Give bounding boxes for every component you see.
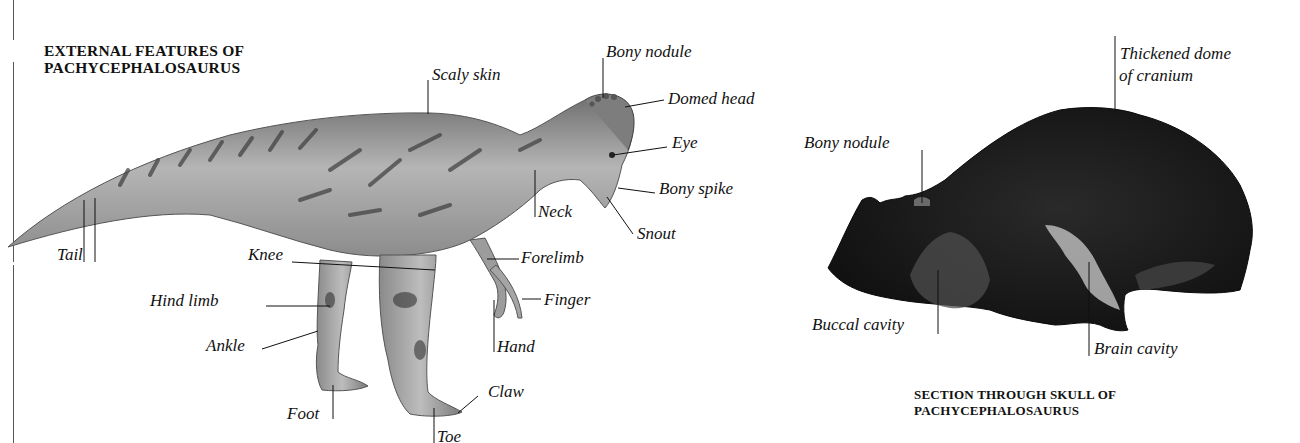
label-domed-head: Domed head xyxy=(668,90,754,108)
label-hand: Hand xyxy=(497,338,535,356)
label-neck: Neck xyxy=(538,203,572,221)
label-brain-cavity: Brain cavity xyxy=(1094,340,1178,358)
label-foot: Foot xyxy=(287,405,319,423)
label-bony-nodule: Bony nodule xyxy=(606,43,691,61)
label-hind-limb: Hind limb xyxy=(150,292,218,310)
right-panel-title-line1: SECTION THROUGH SKULL OF xyxy=(914,387,1116,403)
left-panel-title-line2: PACHYCEPHALOSAURUS xyxy=(44,59,240,76)
label-snout: Snout xyxy=(637,225,676,243)
label-finger: Finger xyxy=(544,291,590,309)
label-claw: Claw xyxy=(488,383,524,401)
label-toe: Toe xyxy=(437,428,461,443)
label-ankle: Ankle xyxy=(206,337,245,355)
label-forelimb: Forelimb xyxy=(521,249,584,267)
label-knee: Knee xyxy=(248,246,283,264)
label-buccal-cavity: Buccal cavity xyxy=(812,316,904,334)
skull-section xyxy=(828,108,1252,331)
label-tail: Tail xyxy=(57,246,83,264)
label-thickened-dome-line1: Thickened dome xyxy=(1120,45,1231,63)
label-thickened-dome-line2: of cranium xyxy=(1119,67,1193,85)
label-eye: Eye xyxy=(672,134,697,152)
left-panel-title-line1: EXTERNAL FEATURES OF xyxy=(44,42,244,59)
right-panel-title-line2: PACHYCEPHALOSAURUS xyxy=(914,403,1079,419)
label-skull-bony-nodule: Bony nodule xyxy=(804,134,889,152)
label-bony-spike: Bony spike xyxy=(659,180,733,198)
label-scaly-skin: Scaly skin xyxy=(432,66,500,84)
